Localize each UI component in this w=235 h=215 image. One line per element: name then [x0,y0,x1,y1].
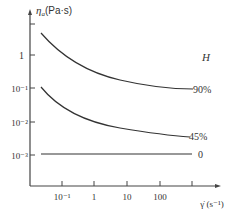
x-tick-label-10: 10 [123,192,133,202]
viscosity-chart: 1 10⁻¹ 10⁻² 10⁻³ 10⁻¹ 1 10 100 ηa(Pa·s) … [0,0,235,215]
y-tick-label-e1: 10⁻¹ [11,84,28,94]
series-label-45: 45% [189,131,207,142]
y-axis-title: ηa(Pa·s) [36,4,72,18]
y-tick-label-1: 1 [19,50,24,61]
x-axis-title: γ̇ (s⁻¹) [199,199,223,209]
curve-45-percent [41,87,190,137]
y-tick-label-e2: 10⁻² [11,118,28,128]
legend-title: H [201,51,211,63]
y-tick-label-e3: 10⁻³ [11,151,28,161]
x-tick-label-e1: 10⁻¹ [54,192,71,202]
y-axis [28,9,32,186]
curve-90-percent [41,33,193,89]
series-label-0: 0 [198,149,203,160]
y-ticks [30,24,35,155]
series-label-90: 90% [193,84,211,95]
x-tick-label-100: 100 [153,192,167,202]
x-ticks [62,181,192,186]
x-tick-label-1: 1 [92,192,97,202]
